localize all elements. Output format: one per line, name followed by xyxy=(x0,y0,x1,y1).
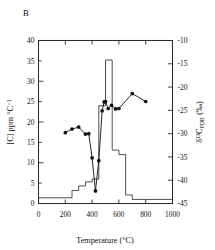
x-tick-label: 400 xyxy=(87,210,98,219)
figure-panel-b: B 02004006008001000 0510152025303540 -45… xyxy=(0,0,215,250)
y-tick-label: 20 xyxy=(27,118,35,127)
isotope-data-point xyxy=(100,109,104,113)
y2-tick-label: -10 xyxy=(178,36,188,45)
y2-title-subscript: PDB xyxy=(199,117,205,128)
series-step-histogram xyxy=(39,60,173,203)
y-tick-label: 5 xyxy=(31,179,35,188)
y-axis-right-title-text: δ¹³CPDB(‰) xyxy=(195,101,205,143)
y-tick-label: 35 xyxy=(27,57,35,66)
panel-label: B xyxy=(23,8,29,18)
y-tick-label: 25 xyxy=(27,97,35,106)
isotope-data-point xyxy=(63,131,67,135)
x-tick-label: 1000 xyxy=(165,210,180,219)
x-axis-title: Temperature (°C) xyxy=(76,236,134,245)
y-tick-label: 0 xyxy=(31,199,35,208)
isotope-data-point xyxy=(114,107,118,111)
y-axis-left-ticks xyxy=(39,61,44,183)
y2-tick-label: -30 xyxy=(178,129,188,138)
isotope-data-point xyxy=(70,127,74,131)
x-tick-label: 800 xyxy=(140,210,151,219)
y-axis-left-tick-labels: 0510152025303540 xyxy=(27,36,35,208)
x-tick-label: 0 xyxy=(37,210,41,219)
step-histogram-path xyxy=(39,60,173,203)
isotope-data-point xyxy=(94,189,98,193)
x-axis-tick-labels: 02004006008001000 xyxy=(37,210,181,219)
y2-tick-label: -45 xyxy=(178,199,188,208)
series-isotope-line xyxy=(63,92,147,193)
chart-canvas: B 02004006008001000 0510152025303540 -45… xyxy=(0,0,215,250)
isotope-data-point xyxy=(144,100,148,104)
y-axis-left-title: [C] ppm °C⁻¹ xyxy=(6,99,15,144)
y-axis-right-tick-labels: -45-40-35-30-25-20-15-10 xyxy=(178,36,188,208)
y2-tick-label: -35 xyxy=(178,153,188,162)
isotope-data-point xyxy=(97,159,101,163)
isotope-line-path xyxy=(65,94,145,191)
isotope-data-point xyxy=(90,156,94,160)
y2-title-main: δ¹³C xyxy=(195,128,204,143)
isotope-data-point xyxy=(77,125,81,129)
isotope-data-point xyxy=(106,107,110,111)
isotope-data-point xyxy=(104,100,108,104)
plot-area: 02004006008001000 0510152025303540 -45-4… xyxy=(27,36,188,218)
isotope-data-point xyxy=(87,132,91,136)
y-tick-label: 15 xyxy=(27,138,35,147)
y2-tick-label: -25 xyxy=(178,106,188,115)
y2-tick-label: -40 xyxy=(178,176,188,185)
x-tick-label: 600 xyxy=(113,210,124,219)
y2-tick-label: -20 xyxy=(178,83,188,92)
isotope-data-point xyxy=(130,92,134,96)
y-tick-label: 40 xyxy=(27,36,35,45)
y-axis-right-title: δ¹³CPDB(‰) xyxy=(195,101,205,143)
y-axis-right-ticks xyxy=(168,64,173,180)
y2-title-units: (‰) xyxy=(195,101,204,115)
isotope-data-point xyxy=(117,107,121,111)
y-tick-label: 10 xyxy=(27,158,35,167)
y2-tick-label: -15 xyxy=(178,59,188,68)
x-tick-label: 200 xyxy=(60,210,71,219)
y-tick-label: 30 xyxy=(27,77,35,86)
isotope-data-point xyxy=(84,132,88,136)
isotope-data-point xyxy=(110,103,114,107)
